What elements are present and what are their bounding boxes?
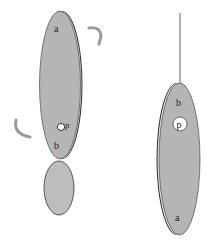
left-figure: a p b: [16, 11, 101, 215]
left-label-bottom: b: [54, 140, 59, 151]
pendulum-diagram: a p b p b a: [0, 0, 207, 244]
right-figure: p b a: [157, 13, 201, 235]
left-label-top: a: [54, 23, 59, 34]
left-long-body: [40, 11, 81, 159]
left-pivot-label: p: [65, 120, 70, 130]
right-label-top: b: [176, 97, 181, 108]
left-pivot-hole: [57, 123, 64, 130]
counterclockwise-arrow-icon: [16, 120, 30, 137]
left-small-body: [44, 161, 74, 215]
clockwise-arrow-icon: [89, 28, 101, 44]
right-pivot-label: p: [177, 119, 182, 130]
right-label-bottom: a: [175, 212, 180, 223]
